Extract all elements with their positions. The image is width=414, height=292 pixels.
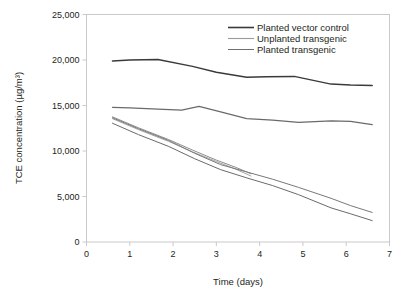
legend-label: Unplanted transgenic [257, 33, 347, 44]
legend-label: Planted transgenic [257, 44, 336, 55]
chart-figure: 05,00010,00015,00020,00025,000 01234567 … [0, 0, 414, 292]
chart-legend: Planted vector controlUnplanted transgen… [228, 22, 349, 55]
x-tick-label: 0 [84, 249, 89, 259]
y-axis-title: TCE concentration (µg/m³) [13, 72, 24, 184]
x-tick-label: 1 [127, 249, 132, 259]
y-tick-label: 10,000 [52, 146, 80, 156]
x-tick-label: 6 [344, 249, 349, 259]
legend-label: Planted vector control [257, 22, 349, 33]
y-tick-label: 20,000 [52, 55, 80, 65]
y-tick-label: 25,000 [52, 10, 80, 20]
plot-area-frame [87, 15, 390, 243]
x-tick-label: 2 [171, 249, 176, 259]
y-tick-label: 15,000 [52, 101, 80, 111]
x-tick-label: 5 [300, 249, 305, 259]
y-tick-label: 5,000 [57, 192, 80, 202]
x-tick-label: 3 [214, 249, 219, 259]
x-tick-label: 7 [387, 249, 392, 259]
x-tick-label: 4 [257, 249, 262, 259]
x-axis-title: Time (days) [213, 276, 263, 287]
y-tick-label: 0 [74, 237, 79, 247]
